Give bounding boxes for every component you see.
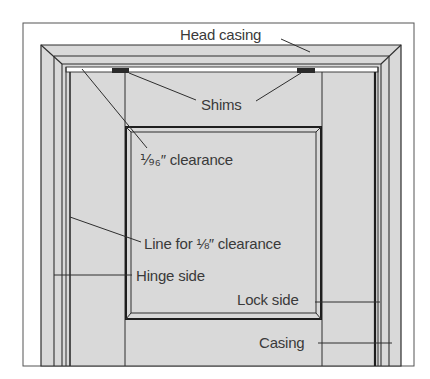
- shim-right: [297, 68, 315, 73]
- shim-left: [112, 68, 129, 73]
- label-shims: Shims: [201, 97, 242, 112]
- label-casing: Casing: [259, 335, 305, 350]
- door-frame-diagram: [0, 0, 430, 379]
- label-line-eighth-clearance: Line for ⅛″ clearance: [144, 236, 281, 251]
- label-hinge-side: Hinge side: [136, 268, 205, 283]
- label-lock-side: Lock side: [237, 292, 299, 307]
- label-head-casing: Head casing: [180, 27, 261, 42]
- label-sixteenth-clearance: ⅑₆″ clearance: [140, 152, 233, 167]
